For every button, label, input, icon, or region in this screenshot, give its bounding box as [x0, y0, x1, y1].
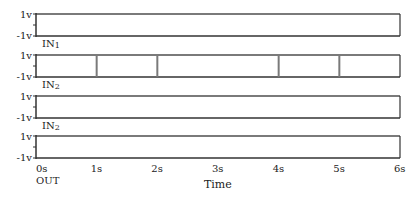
x-tick-label: 5s: [333, 164, 345, 174]
y-label-high: 1v: [2, 51, 32, 61]
y-label-low: -1v: [2, 31, 32, 41]
y-label-low: -1v: [2, 72, 32, 82]
signal-label: IN2: [42, 80, 60, 92]
x-tick-label: 2s: [151, 164, 163, 174]
x-tick-label: 6s: [394, 164, 406, 174]
x-axis-title: Time: [204, 180, 232, 190]
y-label-high: 1v: [2, 92, 32, 102]
x-tick-label: 3s: [212, 164, 224, 174]
timing-diagram-canvas: [0, 0, 419, 200]
y-label-low: -1v: [2, 113, 32, 123]
x-tick-label: 0s: [36, 164, 48, 174]
y-label-low: -1v: [2, 153, 32, 163]
x-tick-label: 1s: [91, 164, 103, 174]
x-tick-label: 4s: [273, 164, 285, 174]
signal-label-out: OUT: [36, 176, 59, 186]
signal-label: IN1: [42, 39, 60, 51]
y-label-high: 1v: [2, 132, 32, 142]
y-label-high: 1v: [2, 10, 32, 20]
signal-label: IN2: [42, 121, 60, 133]
